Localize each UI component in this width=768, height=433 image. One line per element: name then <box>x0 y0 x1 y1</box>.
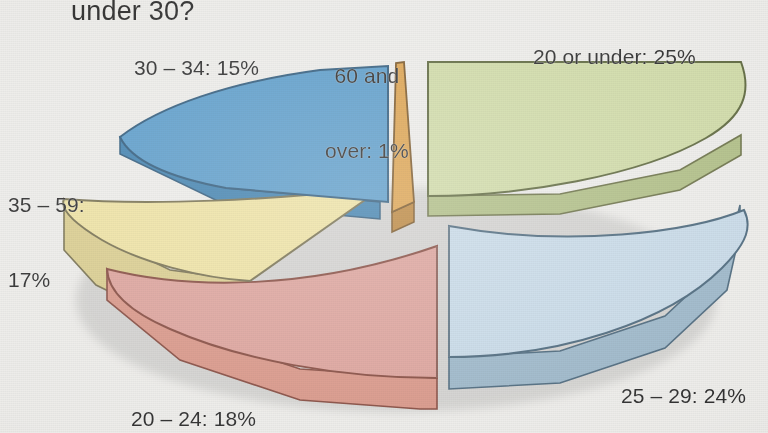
slice-label-30-34: 30 – 34: 15% <box>134 55 259 80</box>
slice-label-60-and-over-line1: 60 and <box>325 63 409 88</box>
slice-label-35-59-line2: 17% <box>8 267 85 292</box>
slice-label-20-24: 20 – 24: 18% <box>131 406 256 431</box>
slice-label-35-59: 35 – 59: 17% <box>8 142 85 342</box>
slice-label-60-and-over-line2: over: 1% <box>325 138 409 163</box>
slice-label-60-and-over: 60 and over: 1% <box>325 13 409 213</box>
slice-label-25-29: 25 – 29: 24% <box>621 383 746 408</box>
slice-label-20-or-under: 20 or under: 25% <box>533 44 696 69</box>
slice-label-35-59-line1: 35 – 59: <box>8 192 85 217</box>
pie-chart-figure: under 30? 20 or under: 25% 60 and over: … <box>0 0 768 433</box>
chart-title: under 30? <box>71 0 194 27</box>
